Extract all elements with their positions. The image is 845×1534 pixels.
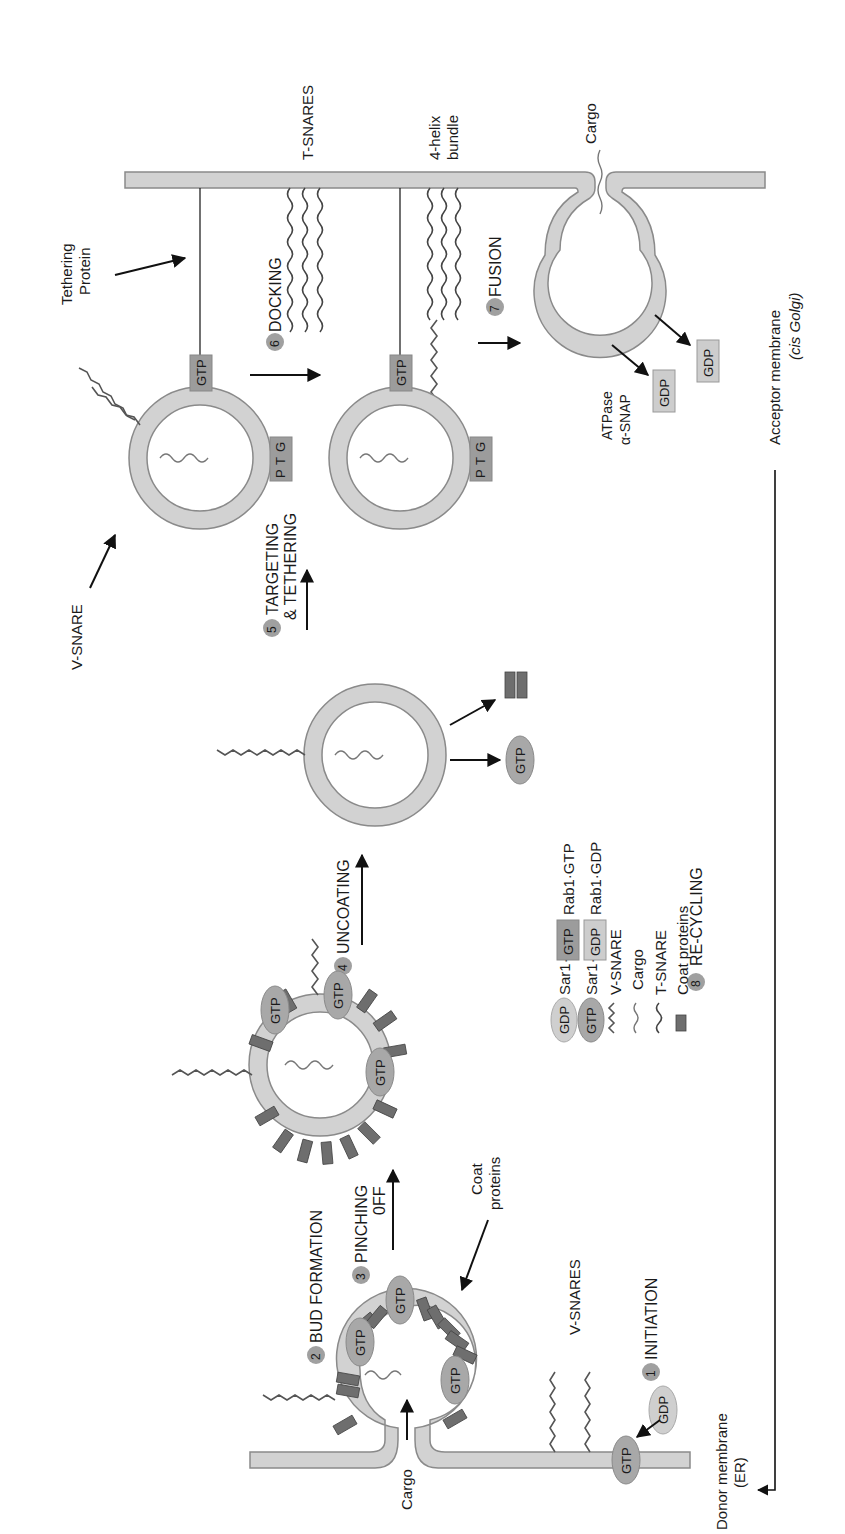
vesicle-transport-diagram: Cargo T-SNARES 4-helix bundle Acceptor m… <box>0 0 845 1534</box>
svg-text:GTP: GTP <box>448 1367 463 1394</box>
step-4-label: UNCOATING <box>335 859 352 954</box>
acceptor-membrane-abbr: (cis Golgi) <box>786 292 803 360</box>
bud-cargo <box>365 1371 401 1379</box>
step-3-label-2: 0FF <box>371 1186 388 1215</box>
cargo-top-label: Cargo <box>582 103 599 144</box>
svg-text:T: T <box>273 457 288 465</box>
t-snares-docking <box>288 188 323 332</box>
helix-label-2: bundle <box>444 115 461 160</box>
svg-text:GTP: GTP <box>619 1447 634 1474</box>
coat-proteins-arrow <box>462 1220 488 1290</box>
v-snare-label: V-SNARE <box>68 604 85 670</box>
legend-coat-proteins: Coat proteins <box>674 906 691 995</box>
legend-rab1-gdp: Rab1·GDP <box>587 842 604 915</box>
step-2-label: BUD FORMATION <box>308 1210 325 1343</box>
rab-gtp-badge: GTP <box>194 359 209 386</box>
svg-text:GTP: GTP <box>513 747 528 774</box>
donor-membrane-abbr: (ER) <box>731 1457 748 1488</box>
svg-text:7: 7 <box>488 305 502 312</box>
atpase-label: ATPase <box>599 391 615 440</box>
legend: GDP Sar1·GDP GTP Sar1·GTP V-SNARE Cargo … <box>551 842 691 1042</box>
donor-membrane-label: Donor membrane <box>713 1413 730 1530</box>
legend-t-snare: T-SNARE <box>652 930 669 995</box>
helix-label-1: 4-helix <box>426 115 443 160</box>
coat-proteins-label-2: proteins <box>486 1157 503 1210</box>
cargo-released <box>598 150 602 214</box>
step-1-label: INITIATION <box>643 1278 660 1360</box>
step-6-label: DOCKING <box>267 257 284 332</box>
cargo-bottom-label: Cargo <box>398 1469 415 1510</box>
svg-text:1: 1 <box>644 1370 658 1377</box>
svg-text:GDP: GDP <box>701 349 716 377</box>
svg-text:GTP: GTP <box>561 928 576 955</box>
step-5-label-2: & TETHERING <box>282 513 299 620</box>
svg-text:GDP: GDP <box>557 1006 572 1034</box>
acceptor-membrane <box>125 172 765 357</box>
t-snares-label: T-SNARES <box>299 85 316 160</box>
acceptor-membrane-label: Acceptor membrane <box>766 310 783 445</box>
svg-text:GTP: GTP <box>394 359 409 386</box>
svg-text:GTP: GTP <box>373 1059 388 1086</box>
coat-proteins-label-1: Coat <box>468 1162 485 1195</box>
alpha-snap-label: α-SNAP <box>617 394 633 445</box>
svg-text:GDP: GDP <box>657 379 672 407</box>
svg-text:8: 8 <box>689 980 703 987</box>
svg-text:GTP: GTP <box>353 1329 368 1356</box>
step-3-label: PINCHING <box>353 1185 370 1263</box>
svg-text:GTP: GTP <box>584 1007 599 1034</box>
step-7-label: FUSION <box>487 237 504 297</box>
step-5-label: TARGETING <box>264 523 281 615</box>
vesicle-docked: GTP G T P <box>329 188 492 529</box>
legend-v-snare: V-SNARE <box>607 929 624 995</box>
svg-text:G: G <box>273 442 288 452</box>
tethering-protein-arrow <box>115 258 185 275</box>
legend-cargo: Cargo <box>629 949 646 990</box>
vesicle-coated: GTP GTP GTP <box>172 939 407 1164</box>
svg-text:G: G <box>473 442 488 452</box>
recycling-path <box>758 470 775 1490</box>
vesicle-uncoated: GTP <box>217 672 534 826</box>
v-snare-arrow <box>90 535 115 588</box>
tethering-label-2: Protein <box>76 247 93 295</box>
svg-text:GTP: GTP <box>393 1287 408 1314</box>
legend-rab1-gtp: Rab1·GTP <box>560 843 577 915</box>
svg-text:GDP: GDP <box>588 928 603 956</box>
svg-text:GDP: GDP <box>656 1396 671 1424</box>
svg-text:P: P <box>273 469 288 478</box>
svg-text:GTP: GTP <box>268 997 283 1024</box>
tethering-label-1: Tethering <box>58 243 75 305</box>
four-helix-bundle <box>428 188 461 416</box>
svg-text:P: P <box>473 469 488 478</box>
v-snares-label: V-SNARES <box>566 1259 583 1335</box>
svg-text:2: 2 <box>309 1353 323 1360</box>
svg-text:6: 6 <box>268 340 282 347</box>
svg-text:4: 4 <box>336 964 350 971</box>
svg-text:GTP: GTP <box>331 982 346 1009</box>
svg-text:5: 5 <box>265 626 279 633</box>
svg-text:T: T <box>473 457 488 465</box>
vesicle-tethering: GTP G T P <box>79 188 292 529</box>
v-snares-donor <box>550 1372 590 1452</box>
svg-text:3: 3 <box>354 1273 368 1280</box>
